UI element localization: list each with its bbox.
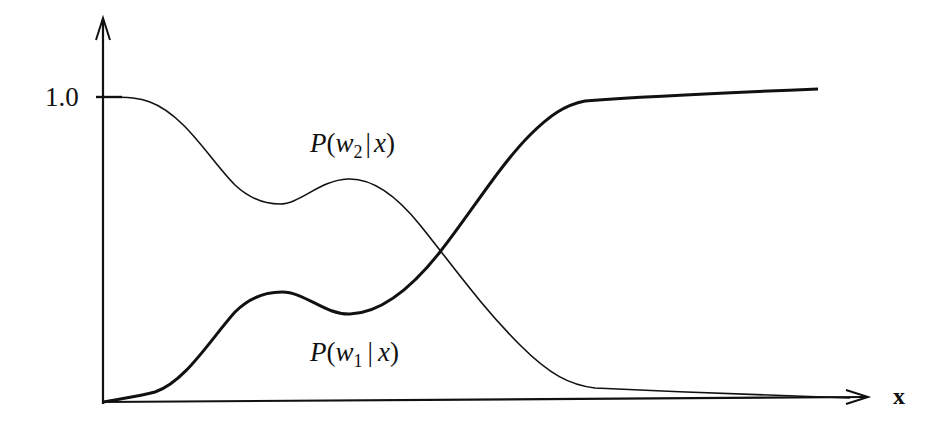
label-subscript: 2 [354, 142, 363, 162]
curve-p-w2-given-x [103, 97, 850, 398]
y-tick-label: 1.0 [45, 84, 79, 111]
label-open-paren: ( [327, 337, 336, 367]
x-axis [102, 397, 866, 402]
posterior-probability-figure: 1.0 P(w2|x) P(w1|x) x [0, 0, 951, 427]
curve-label-p-w1-given-x: P(w1|x) [310, 339, 399, 366]
label-close-paren: ) [390, 337, 399, 367]
label-prefix: P [310, 337, 327, 367]
label-subscript: 1 [354, 351, 363, 371]
label-given-bar: | [368, 337, 373, 367]
label-given-bar: | [366, 128, 371, 158]
label-prefix: P [310, 128, 327, 158]
label-given: x [378, 337, 390, 367]
plot-canvas [0, 0, 951, 427]
label-var: w [336, 337, 354, 367]
label-close-paren: ) [386, 128, 395, 158]
label-open-paren: ( [327, 128, 336, 158]
label-var: w [336, 128, 354, 158]
curve-label-p-w2-given-x: P(w2|x) [310, 130, 395, 157]
x-axis-label: x [893, 384, 905, 408]
curve-p-w1-given-x [103, 89, 818, 402]
label-given: x [374, 128, 386, 158]
